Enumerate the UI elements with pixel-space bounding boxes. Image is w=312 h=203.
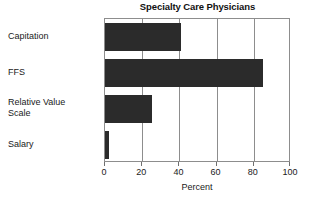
y-axis-label-line: Scale [8,108,100,119]
bars-group [105,19,289,161]
y-axis-label-line: FFS [8,67,100,78]
y-axis-label-line: Capitation [8,31,100,42]
x-axis-title: Percent [104,182,290,192]
tick-mark [104,162,105,166]
bar [105,131,109,158]
x-tick-label: 20 [121,167,161,177]
x-axis-tick-labels: 020406080100 [0,167,312,181]
x-tick-label: 60 [196,167,236,177]
x-tick-label: 0 [84,167,124,177]
bar [105,95,152,122]
y-axis-category-label: FFS [8,67,100,78]
y-axis-category-label: Salary [8,139,100,150]
tick-mark [178,162,179,166]
y-axis-label-line: Relative Value [8,97,100,108]
tick-mark [289,162,290,166]
tick-mark [141,162,142,166]
y-axis-category-label: Relative ValueScale [8,97,100,119]
y-axis-label-line: Salary [8,139,100,150]
tick-mark [253,162,254,166]
bar [105,23,181,50]
bar [105,59,263,86]
x-tick-label: 100 [270,167,310,177]
x-tick-label: 40 [158,167,198,177]
chart-title: Specialty Care Physicians [104,1,291,12]
bar-chart-figure: Specialty Care Physicians CapitationFFSR… [0,0,312,203]
plot-area [104,18,290,162]
tick-mark [216,162,217,166]
y-axis-category-label: Capitation [8,31,100,42]
y-axis-category-labels: CapitationFFSRelative ValueScaleSalary [0,18,100,162]
x-tick-label: 80 [233,167,273,177]
